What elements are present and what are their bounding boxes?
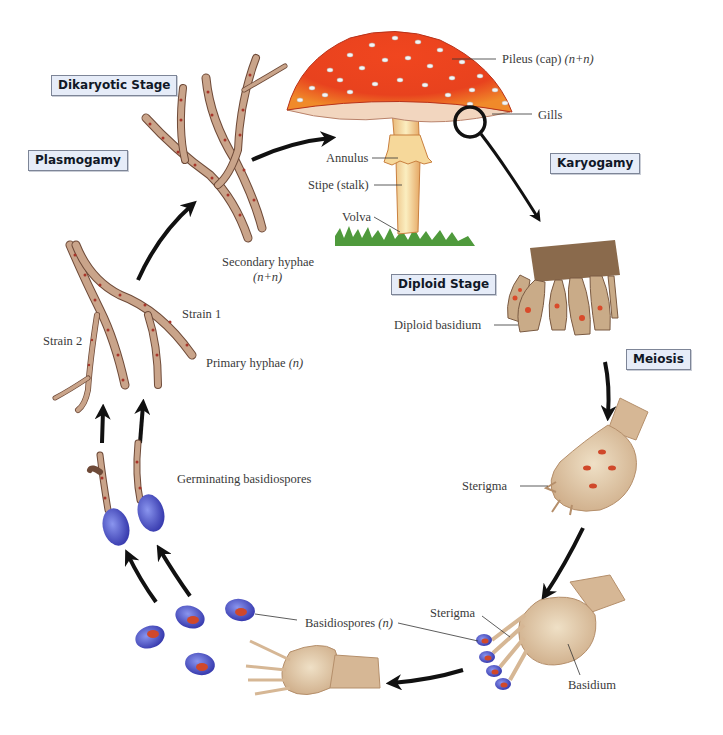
label-primary-hyphae: Primary hyphae (n): [206, 356, 303, 370]
empty-basidium: [246, 641, 380, 695]
stage-box-diploid: Diploid Stage: [391, 274, 496, 295]
stage-box-plasmogamy: Plasmogamy: [28, 150, 128, 171]
label-volva: Volva: [342, 210, 371, 224]
label-diploid-basidium: Diploid basidium: [394, 318, 481, 332]
basidiospores: [132, 597, 297, 678]
primary-hyphae: [55, 245, 192, 410]
label-gills: Gills: [538, 108, 562, 122]
gill-section: [494, 240, 620, 335]
mature-basidium: [398, 575, 625, 690]
label-sterigma-upper: Sterigma: [462, 479, 507, 493]
label-sterigma-lower: Sterigma: [430, 606, 475, 620]
basidium-meiosis: [520, 398, 648, 515]
label-secondary-hyphae-ploidy: (n+n): [253, 270, 282, 284]
stage-box-meiosis: Meiosis: [626, 349, 691, 370]
label-germinating-basidiospores: Germinating basidiospores: [177, 472, 311, 486]
label-stipe: Stipe (stalk): [308, 178, 369, 192]
label-strain-2: Strain 2: [43, 334, 82, 348]
stage-box-dikaryotic: Dikaryotic Stage: [51, 75, 177, 96]
label-strain-1: Strain 1: [182, 307, 221, 321]
label-basidiospores: Basidiospores (n): [305, 616, 393, 630]
life-cycle-diagram: Dikaryotic Stage Plasmogamy Karyogamy Di…: [0, 0, 723, 735]
germinating-spores: [90, 443, 168, 549]
label-pileus: Pileus (cap) (n+n): [502, 52, 594, 66]
label-basidium: Basidium: [568, 678, 616, 692]
label-annulus: Annulus: [326, 151, 368, 165]
stage-box-karyogamy: Karyogamy: [550, 153, 640, 174]
label-secondary-hyphae: Secondary hyphae: [222, 255, 314, 269]
